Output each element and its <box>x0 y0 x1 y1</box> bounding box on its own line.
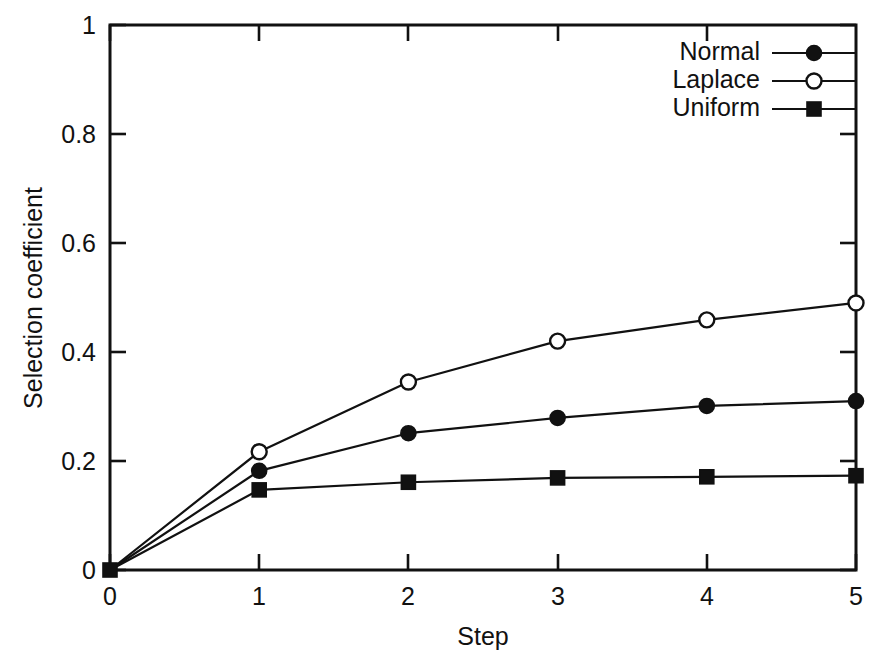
x-tick-label: 4 <box>700 582 714 610</box>
line-chart: 0 0.2 0.4 0.6 0.8 1 0 1 2 3 4 5 Step Sel… <box>0 0 875 654</box>
y-tick-label: 1 <box>82 11 96 39</box>
chart-legend: NormalLaplaceUniform <box>672 37 856 121</box>
data-point-marker <box>550 334 565 349</box>
y-axis-title: Selection coefficient <box>19 187 47 409</box>
x-tick-label: 1 <box>252 582 266 610</box>
data-point-marker <box>103 563 117 577</box>
data-point-marker <box>807 102 821 116</box>
data-point-marker <box>252 444 267 459</box>
data-point-marker <box>699 312 714 327</box>
x-axis-title: Step <box>457 622 508 650</box>
data-point-marker <box>807 46 822 61</box>
data-point-marker <box>551 471 565 485</box>
y-tick-label: 0.6 <box>61 229 96 257</box>
y-tick-labels: 0 0.2 0.4 0.6 0.8 1 <box>61 11 96 584</box>
y-tick-label: 0.4 <box>61 338 96 366</box>
series-line <box>110 476 856 570</box>
x-tick-label: 3 <box>551 582 565 610</box>
series-layer <box>103 295 864 577</box>
data-point-marker <box>401 374 416 389</box>
y-tick-label: 0 <box>82 556 96 584</box>
y-tick-label: 0.8 <box>61 120 96 148</box>
x-tick-label: 0 <box>103 582 117 610</box>
legend-label: Normal <box>679 37 760 65</box>
data-point-marker <box>849 394 864 409</box>
series-laplace <box>110 295 864 570</box>
data-point-marker <box>849 469 863 483</box>
series-uniform <box>110 469 863 570</box>
chart-figure: 0 0.2 0.4 0.6 0.8 1 0 1 2 3 4 5 Step Sel… <box>0 0 875 654</box>
legend-label: Uniform <box>672 93 760 121</box>
x-tick-labels: 0 1 2 3 4 5 <box>103 582 863 610</box>
data-point-marker <box>699 398 714 413</box>
x-tick-label: 5 <box>849 582 863 610</box>
data-point-marker <box>550 410 565 425</box>
data-point-marker <box>252 463 267 478</box>
data-point-marker <box>807 74 822 89</box>
series-line <box>110 401 856 570</box>
data-point-marker <box>401 475 415 489</box>
x-tick-label: 2 <box>401 582 415 610</box>
legend-label: Laplace <box>672 65 760 93</box>
y-tick-label: 0.2 <box>61 447 96 475</box>
data-point-marker <box>700 470 714 484</box>
data-point-marker <box>401 426 416 441</box>
series-line <box>110 303 856 570</box>
data-point-marker <box>849 295 864 310</box>
data-point-marker <box>252 483 266 497</box>
